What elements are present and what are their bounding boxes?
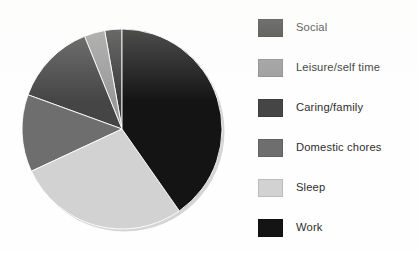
pie-chart-figure: Social Leisure/self time Caring/family D… [0,0,418,253]
legend-label-sleep: Sleep [296,182,325,193]
legend-item-work[interactable]: Work [258,208,408,248]
legend-swatch-leisure-self-time [258,59,283,77]
legend-swatch-work [258,219,283,237]
legend-item-domestic-chores[interactable]: Domestic chores [258,128,408,168]
legend-item-leisure-self-time[interactable]: Leisure/self time [258,48,408,88]
legend-label-caring-family: Caring/family [296,102,363,113]
legend-swatch-caring-family [258,99,283,117]
pie-slice-group [22,29,224,232]
legend-label-work: Work [296,222,323,233]
legend-swatch-sleep [258,179,283,197]
legend-item-sleep[interactable]: Sleep [258,168,408,208]
pie-chart-svg [18,24,228,234]
pie-chart-plot-area [18,24,228,234]
legend-swatch-social [258,19,283,37]
legend-label-domestic-chores: Domestic chores [296,142,382,153]
legend-item-social[interactable]: Social [258,8,408,48]
legend-swatch-domestic-chores [258,139,283,157]
legend-item-caring-family[interactable]: Caring/family [258,88,408,128]
chart-legend: Social Leisure/self time Caring/family D… [258,8,408,248]
legend-label-social: Social [296,22,327,33]
legend-label-leisure-self-time: Leisure/self time [296,62,380,73]
